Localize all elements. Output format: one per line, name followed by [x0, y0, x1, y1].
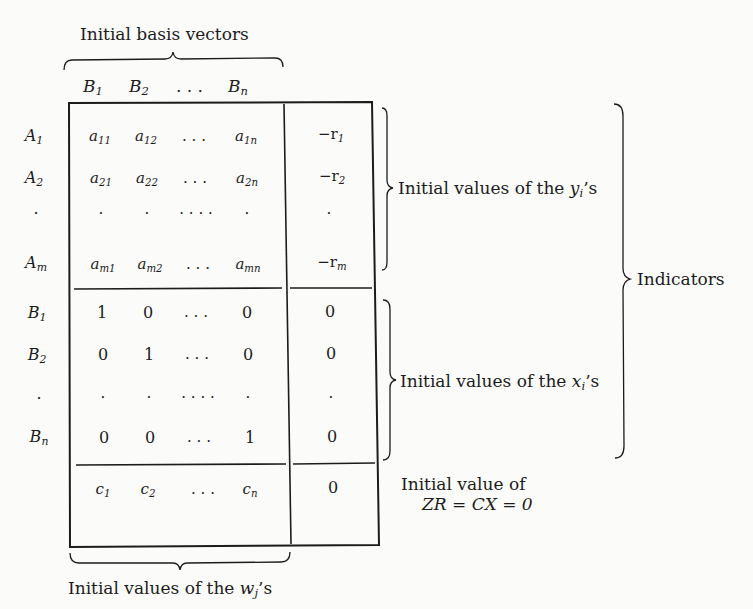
top-brace [64, 52, 283, 70]
cell-ellipsis: . . . [191, 480, 215, 498]
cell-a21: a21 [90, 169, 112, 187]
cell-ellipsis: . . . [187, 428, 211, 446]
column-header-bn: Bn [228, 76, 248, 96]
cell-identity-2-1: 0 [98, 345, 108, 364]
cell-rhs-dot: · [329, 388, 334, 406]
row-label-a2: A2 [25, 168, 43, 187]
cell-rhs-dot: · [327, 204, 332, 222]
cell-dot: · [245, 204, 250, 222]
brace-indicators [614, 104, 630, 458]
cell-dots: · · · · [179, 204, 212, 222]
indicators-annotation: Indicators [637, 269, 725, 289]
bottom-brace [70, 552, 290, 570]
cell-a12: a12 [135, 127, 157, 145]
cell-cost-c1: c1 [96, 480, 111, 498]
divider-constraints [74, 288, 282, 289]
cell-rhs-r1: −r1 [318, 125, 344, 143]
cell-rhs-rm: −rm [317, 253, 346, 271]
column-header-ellipsis: . . . [176, 76, 203, 96]
column-header-b1: B1 [83, 76, 103, 96]
cell-identity-1-2: 0 [143, 303, 153, 322]
initial-basis-vectors-label: Initial basis vectors [80, 24, 249, 44]
cell-identity-2-n: 0 [243, 345, 253, 364]
rhs-divider [284, 104, 291, 544]
cell-am1: am1 [90, 255, 115, 273]
y-values-annotation: Initial values of the yi’s [398, 178, 597, 198]
cell-identity-n-2: 0 [145, 428, 155, 447]
cell-a2n: a2n [236, 169, 258, 187]
row-label-b2: B2 [28, 345, 47, 364]
cell-dot: · [147, 388, 152, 406]
row-label-dots-b: · [36, 389, 41, 408]
cell-dot: · [99, 204, 104, 222]
row-label-a1: A1 [25, 126, 43, 145]
objective-annotation-line1: Initial value of [401, 474, 525, 494]
row-label-dots-a: · [33, 204, 38, 223]
cell-a22: a22 [136, 169, 158, 187]
cell-cost-c2: c2 [141, 480, 156, 498]
cell-dot: · [101, 388, 106, 406]
cell-identity-n-n: 1 [245, 428, 255, 447]
cell-identity-n-1: 0 [99, 428, 109, 447]
cell-identity-1-1: 1 [97, 303, 107, 322]
cell-identity-2-2: 1 [144, 345, 154, 364]
divider-identity [76, 464, 286, 465]
cell-rhs-r2: −r2 [319, 167, 345, 185]
tableau-lines [0, 0, 753, 609]
row-label-b1: B1 [28, 303, 47, 322]
row-label-am: Am [25, 253, 47, 272]
cell-identity-1-n: 0 [242, 303, 252, 322]
cell-objective-zero: 0 [328, 478, 338, 497]
brace-x-values [383, 300, 396, 460]
row-label-bn: Bn [30, 427, 49, 446]
cell-rhs-zero: 0 [327, 427, 337, 446]
w-values-annotation: Initial values of the wj’s [68, 578, 272, 598]
cell-a1n: a1n [235, 127, 257, 145]
cell-dot: · [246, 388, 251, 406]
cell-amn: amn [235, 255, 260, 273]
cell-rhs-zero: 0 [325, 302, 335, 321]
cell-dots: · · · · [181, 388, 214, 406]
cell-ellipsis: . . . [182, 127, 206, 145]
x-values-annotation: Initial values of the xi’s [400, 371, 599, 391]
column-header-b2: B2 [129, 76, 149, 96]
objective-annotation-line2: ZR = CX = 0 [422, 494, 533, 514]
cell-ellipsis: . . . [184, 303, 208, 321]
cell-a11: a11 [89, 127, 111, 145]
cell-ellipsis: . . . [183, 169, 207, 187]
cell-dot: · [145, 204, 150, 222]
cell-ellipsis: . . . [185, 345, 209, 363]
brace-y-values [382, 108, 393, 270]
divider-identity-rhs [293, 463, 375, 464]
cell-am2: am2 [137, 255, 162, 273]
cell-ellipsis: . . . [186, 255, 210, 273]
cell-cost-cn: cn [243, 480, 258, 498]
cell-rhs-zero: 0 [326, 344, 336, 363]
